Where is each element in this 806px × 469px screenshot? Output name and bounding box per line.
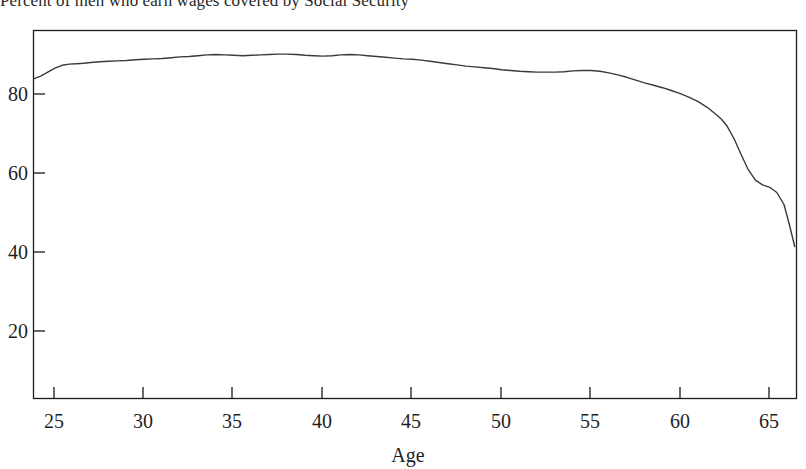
x-tick-label-50: 50 [491, 410, 511, 432]
x-axis-tick-labels: 25 30 35 40 45 50 55 60 65 [44, 410, 779, 432]
plot-frame [34, 31, 797, 399]
x-axis-ticks [54, 387, 769, 399]
series-line-percent-covered [34, 54, 795, 246]
x-tick-label-65: 65 [759, 410, 779, 432]
line-chart: 80 60 40 20 25 30 35 40 45 50 55 60 [0, 0, 806, 469]
x-tick-label-35: 35 [222, 410, 242, 432]
x-axis-title: Age [391, 444, 424, 467]
y-tick-label-40: 40 [8, 241, 28, 263]
y-tick-label-60: 60 [8, 162, 28, 184]
y-axis-ticks [34, 94, 46, 331]
figure-container: Percent of men who earn wages covered by… [0, 0, 806, 469]
x-tick-label-55: 55 [580, 410, 600, 432]
x-tick-label-25: 25 [44, 410, 64, 432]
x-tick-label-45: 45 [401, 410, 421, 432]
y-axis-tick-labels: 80 60 40 20 [8, 83, 28, 342]
x-tick-label-60: 60 [670, 410, 690, 432]
y-tick-label-20: 20 [8, 320, 28, 342]
x-tick-label-30: 30 [133, 410, 153, 432]
y-tick-label-80: 80 [8, 83, 28, 105]
x-tick-label-40: 40 [312, 410, 332, 432]
